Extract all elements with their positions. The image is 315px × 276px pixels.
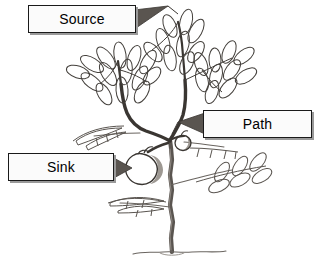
callout-path[interactable]: Path (203, 110, 312, 138)
leaflet (131, 79, 153, 106)
leaflet (220, 57, 244, 83)
leaflet (231, 44, 257, 68)
leaflet-vein (224, 151, 226, 159)
leaflet (112, 41, 128, 68)
leaflet (209, 48, 222, 72)
fruit-small (175, 131, 191, 151)
callout-sink[interactable]: Sink (8, 153, 114, 181)
upper-right-compound-leaf (185, 39, 259, 106)
callout-path-label: Path (243, 117, 273, 131)
leaf-rachis (190, 148, 238, 152)
plant-illustration (0, 0, 315, 276)
leaflet (207, 177, 232, 196)
leaflet (184, 39, 207, 66)
leaflet-vein (210, 150, 212, 158)
leaflet-blade (76, 128, 122, 145)
branch-lower-right (171, 170, 232, 185)
leaflet-vein (136, 210, 138, 217)
mid-left-small-leaf (73, 126, 126, 150)
branch-to-fruit (148, 143, 168, 152)
leaflet-vein (235, 152, 236, 159)
callout-source[interactable]: Source (28, 5, 136, 33)
leaflet (65, 63, 92, 82)
lower-left-small-leaf (108, 197, 166, 217)
leaflet-vein (197, 149, 199, 157)
leaflet (93, 81, 115, 108)
fruit-large-sink (126, 147, 163, 185)
pointer-source-tail (168, 6, 178, 14)
branch-right-main (170, 80, 186, 140)
leaflet (141, 39, 166, 65)
callout-sink-label: Sink (47, 160, 75, 174)
leaflet-blade (118, 206, 164, 213)
leaflet (229, 154, 250, 178)
callout-source-label: Source (59, 12, 105, 26)
leaflet (247, 150, 270, 174)
leaflet (250, 166, 274, 187)
leaflet (160, 13, 180, 40)
leaf-rachis (185, 58, 232, 80)
ground-group (133, 251, 226, 255)
leaflet (216, 75, 241, 101)
leaflet (78, 52, 106, 76)
leaflet (219, 39, 239, 66)
ground-line (133, 251, 226, 254)
leaflet-vein (151, 209, 152, 216)
upper-left-compound-leaf (65, 41, 164, 107)
pointer-sink (112, 157, 132, 179)
branch-right-upper (178, 22, 185, 80)
mid-right-small-leaf (190, 148, 238, 159)
figure-canvas: Source Path Sink (0, 0, 315, 276)
